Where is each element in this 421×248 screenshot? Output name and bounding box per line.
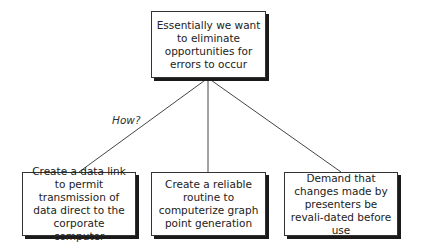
child-node-data-link: Create a data link to permit transmissio…	[22, 172, 136, 236]
root-node: Essentially we want to eliminate opportu…	[151, 11, 266, 78]
child-node-text: Create a reliable routine to computerize…	[156, 178, 261, 230]
root-node-text: Essentially we want to eliminate opportu…	[156, 19, 261, 71]
edge-label-how: How?	[112, 114, 140, 126]
child-node-text: Demand that changes made by presenters b…	[289, 172, 393, 237]
child-node-reliable-routine: Create a reliable routine to computerize…	[151, 172, 266, 236]
child-node-text: Create a data link to permit transmissio…	[27, 165, 131, 243]
child-node-revalidate: Demand that changes made by presenters b…	[284, 172, 398, 236]
